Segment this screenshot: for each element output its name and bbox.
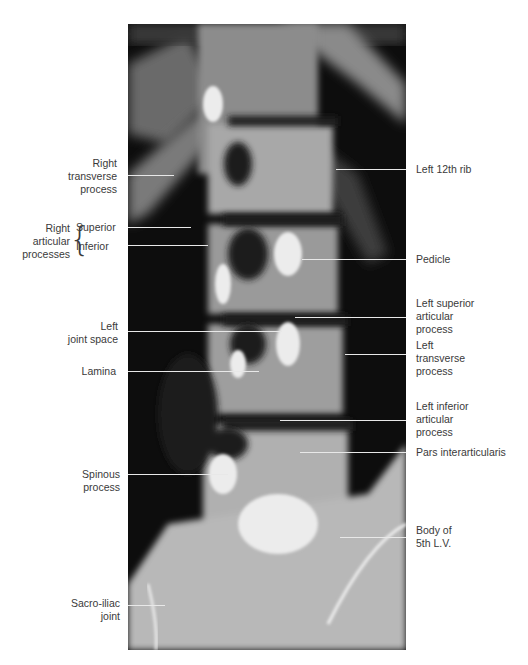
label-left-inferior-articular-process: Left inferior articular process	[416, 400, 469, 439]
label-text: Left joint space	[68, 320, 118, 345]
leader-line-right-inferior-articular	[128, 245, 208, 246]
xray-image	[128, 24, 406, 650]
label-pedicle: Pedicle	[416, 253, 450, 266]
label-text: Right articular processes	[22, 222, 70, 260]
label-text: Lamina	[82, 365, 116, 377]
leader-line-pedicle	[302, 259, 406, 260]
label-text: Sacro-iliac joint	[71, 597, 120, 622]
leader-line-left-joint-space	[128, 331, 282, 332]
label-text: Left inferior articular process	[416, 400, 469, 438]
label-text: Left superior articular process	[416, 297, 474, 335]
label-right-articular-processes: Right articular processes	[0, 222, 70, 261]
label-text: Body of 5th L.V.	[416, 524, 452, 549]
label-left-joint-space: Left joint space	[8, 320, 118, 346]
label-right-transverse-process: Right transverse process	[7, 157, 117, 196]
leader-line-left-12th-rib	[336, 169, 406, 170]
leader-line-left-superior-articular-process	[295, 317, 406, 318]
label-text: Right transverse process	[68, 157, 117, 195]
label-lamina: Lamina	[6, 365, 116, 378]
label-right-inferior: Inferior	[76, 240, 109, 253]
label-pars-interarticularis: Pars interarticularis	[416, 446, 506, 459]
leader-line-pars-interarticularis	[300, 452, 406, 453]
leader-line-lamina	[128, 371, 259, 372]
leader-line-left-transverse-process	[345, 354, 406, 355]
leader-line-body-of-5th-lv	[340, 537, 406, 538]
label-sacro-iliac-joint: Sacro-iliac joint	[10, 597, 120, 623]
leader-line-right-transverse-process	[128, 175, 174, 176]
leader-line-left-inferior-articular-process	[280, 420, 406, 421]
leader-line-spinous-process	[128, 474, 228, 475]
leader-line-right-superior-articular	[128, 227, 191, 228]
label-text: Left transverse process	[416, 339, 465, 377]
label-left-12th-rib: Left 12th rib	[416, 163, 471, 176]
label-left-superior-articular-process: Left superior articular process	[416, 297, 474, 336]
label-right-superior: Superior	[76, 221, 116, 234]
label-text: Left 12th rib	[416, 163, 471, 175]
label-spinous-process: Spinous process	[10, 468, 120, 494]
label-text: Spinous process	[82, 468, 120, 493]
label-body-of-5th-lv: Body of 5th L.V.	[416, 524, 452, 550]
label-text: Superior	[76, 221, 116, 233]
label-left-transverse-process: Left transverse process	[416, 339, 465, 378]
leader-line-sacro-iliac-joint	[128, 605, 165, 606]
spine-xray-illustration	[128, 24, 406, 650]
label-text: Pars interarticularis	[416, 446, 506, 458]
label-text: Inferior	[76, 240, 109, 252]
label-text: Pedicle	[416, 253, 450, 265]
